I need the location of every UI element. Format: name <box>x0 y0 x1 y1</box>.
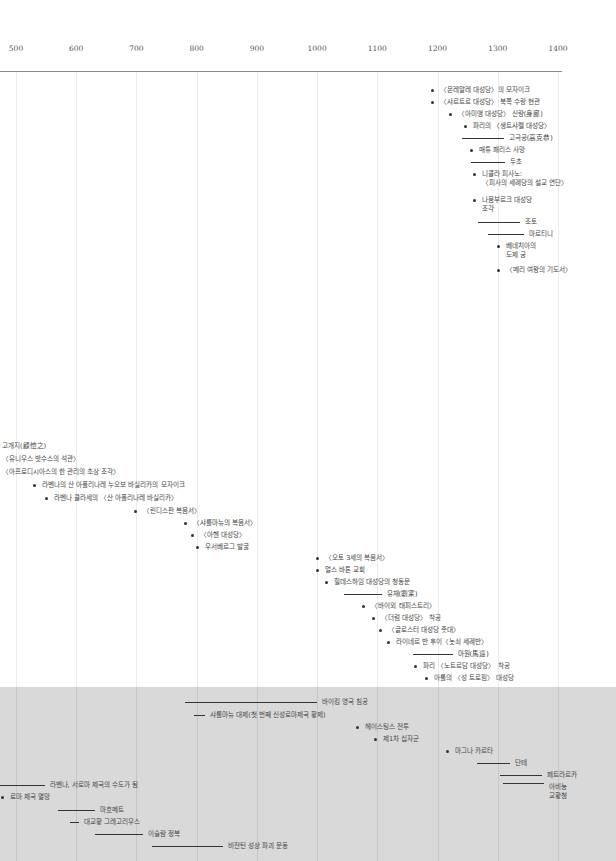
x-tick-label: 900 <box>250 44 264 53</box>
x-tick-label: 600 <box>69 44 83 53</box>
event-label-line: 조각 <box>482 205 532 214</box>
event-label: 마르티니 <box>529 230 553 239</box>
event-label: 로마 제국 멸망 <box>10 793 50 802</box>
event-span-bar <box>0 785 45 786</box>
event-span-bar <box>194 715 205 716</box>
event-span-bar <box>477 763 511 764</box>
event-span-bar <box>95 834 143 835</box>
event-point-marker <box>45 497 48 500</box>
event-label: 두초 <box>510 158 522 167</box>
event-point-marker <box>497 245 500 248</box>
event-point-marker <box>134 510 137 513</box>
timeline-event: 〈아미앵 대성당〉 신랑(身廊) <box>449 110 543 119</box>
event-point-marker <box>372 617 375 620</box>
x-tick-label: 1100 <box>368 44 387 53</box>
x-tick-label: 800 <box>189 44 203 53</box>
event-label: 라벤나, 서로마 제국의 수도가 됨 <box>50 781 138 790</box>
event-label: 〈몬레알레 대성당〉의 모자이크 <box>440 86 530 95</box>
event-span-bar <box>58 810 95 811</box>
event-label: 〈유니우스 밧수스의 석관〉 <box>2 455 80 464</box>
timeline-event: 마원(馬遠) <box>413 650 488 659</box>
timeline-event: 〈린디스판 복음서〉 <box>134 507 201 516</box>
event-label: 조토 <box>525 218 537 227</box>
event-point-marker <box>473 173 476 176</box>
event-label: 〈메리 여왕의 기도서〉 <box>506 266 572 275</box>
timeline-event: 파리 〈노트르담 대성당〉 착공 <box>414 662 509 671</box>
event-label: 유채(劉寀) <box>387 590 418 599</box>
timeline-event: 아롤의 〈성 트로핌〉 대성당 <box>425 674 514 683</box>
timeline-event: 조토 <box>478 218 537 227</box>
event-point-marker <box>431 101 434 104</box>
timeline-event: 라벤나의 산 아폴리나레 누오보 바실리카의 모자이크 <box>33 481 184 490</box>
event-span-bar <box>471 162 505 163</box>
timeline-event: 〈유니우스 밧수스의 석관〉 <box>2 455 80 464</box>
timeline-event: 우서베르그 발굴 <box>196 543 249 552</box>
event-label-line: 베네치아의 <box>506 242 536 251</box>
event-label: 파리 〈노트르담 대성당〉 착공 <box>423 662 509 671</box>
timeline-event: 마르티니 <box>488 230 553 239</box>
event-label: 〈오토 3세의 복음서〉 <box>325 554 389 563</box>
x-tick-label: 1400 <box>548 44 567 53</box>
event-label: 〈린디스판 복음서〉 <box>143 507 201 516</box>
timeline-event: 〈샤를마뉴의 복음서〉 <box>184 519 257 528</box>
event-label: 페트라르카 <box>547 771 577 780</box>
timeline-event: 〈샤르트르 대성당〉 북쪽 수랑 현관 <box>431 98 540 107</box>
timeline-event: 힐데스하임 대성당의 청동문 <box>325 578 410 587</box>
event-point-marker <box>356 726 359 729</box>
event-label: 헤이스팅스 전투 <box>365 723 409 732</box>
event-point-marker <box>431 89 434 92</box>
timeline-event: 바이킹 영국 침공 <box>185 698 369 707</box>
timeline-event: 대교황 그레고리우스 <box>70 818 140 827</box>
event-label-line: 아비뇽 <box>549 783 567 792</box>
event-point-marker <box>316 557 319 560</box>
timeline-event: 비잔틴 성상 파괴 운동 <box>152 842 288 851</box>
x-tick-label: 700 <box>129 44 143 53</box>
event-point-marker <box>33 484 36 487</box>
x-tick-label: 1000 <box>308 44 327 53</box>
x-tick-label: 1300 <box>488 44 507 53</box>
timeline-event: 고극공(高克恭) <box>462 134 553 143</box>
event-span-bar <box>152 846 222 847</box>
event-label: 파리의 〈생트샤펠 대성당〉 <box>473 122 551 131</box>
timeline-event: 나움부르크 대성당조각 <box>473 196 532 214</box>
event-point-marker <box>325 581 328 584</box>
event-label: 우서베르그 발굴 <box>205 543 249 552</box>
event-label: 라벤나 클라세의 〈산 아폴리나레 바실리카〉 <box>54 494 178 503</box>
event-span-bar <box>185 702 317 703</box>
timeline-event: 〈메리 여왕의 기도서〉 <box>497 266 572 275</box>
timeline-event: 두초 <box>471 158 522 167</box>
event-label: 〈아헨 대성당〉 <box>200 531 246 540</box>
event-span-bar <box>503 783 544 784</box>
event-point-marker <box>473 199 476 202</box>
event-label: 〈더럼 대성당〉 착공 <box>381 614 441 623</box>
event-point-marker <box>497 269 500 272</box>
event-span-bar <box>413 654 452 655</box>
event-label: 〈글로스터 대성당 촛대〉 <box>388 626 460 635</box>
event-label-line: 〈피사의 세례당의 설교 연단〉 <box>482 179 568 188</box>
event-label: 단테 <box>515 759 527 768</box>
event-label: 마그나 카르타 <box>455 747 493 756</box>
event-point-marker <box>196 546 199 549</box>
event-point-marker <box>387 641 390 644</box>
x-tick-label: 1200 <box>428 44 447 53</box>
event-label: 라이네르 반 후이〈놋쇠 세례반〉 <box>396 638 488 647</box>
timeline-event: 〈몬레알레 대성당〉의 모자이크 <box>431 86 530 95</box>
timeline-event: 〈더럼 대성당〉 착공 <box>372 614 441 623</box>
event-label: 힐데스하임 대성당의 청동문 <box>334 578 410 587</box>
event-label-line: 도제 궁 <box>506 251 536 260</box>
event-label: 바이킹 영국 침공 <box>322 698 368 707</box>
event-label: 라벤나의 산 아폴리나레 누오보 바실리카의 모자이크 <box>42 481 184 490</box>
event-label: 비잔틴 성상 파괴 운동 <box>228 842 288 851</box>
timeline-chart: 50060070080090010001100120013001400 〈몬레알… <box>0 0 616 861</box>
event-label: 고극공(高克恭) <box>509 134 553 143</box>
timeline-event: 얼스 바톤 교회 <box>316 566 365 575</box>
timeline-event: 유채(劉寀) <box>344 590 417 599</box>
timeline-event: 베네치아의도제 궁 <box>497 242 536 260</box>
event-span-bar <box>344 594 381 595</box>
event-point-marker <box>470 149 473 152</box>
x-tick-label: 500 <box>9 44 23 53</box>
event-label-line: 니콜라 피사노: <box>482 170 568 179</box>
timeline-event: 라벤나 클라세의 〈산 아폴리나레 바실리카〉 <box>45 494 178 503</box>
event-point-marker <box>374 738 377 741</box>
grid-line <box>438 687 439 861</box>
